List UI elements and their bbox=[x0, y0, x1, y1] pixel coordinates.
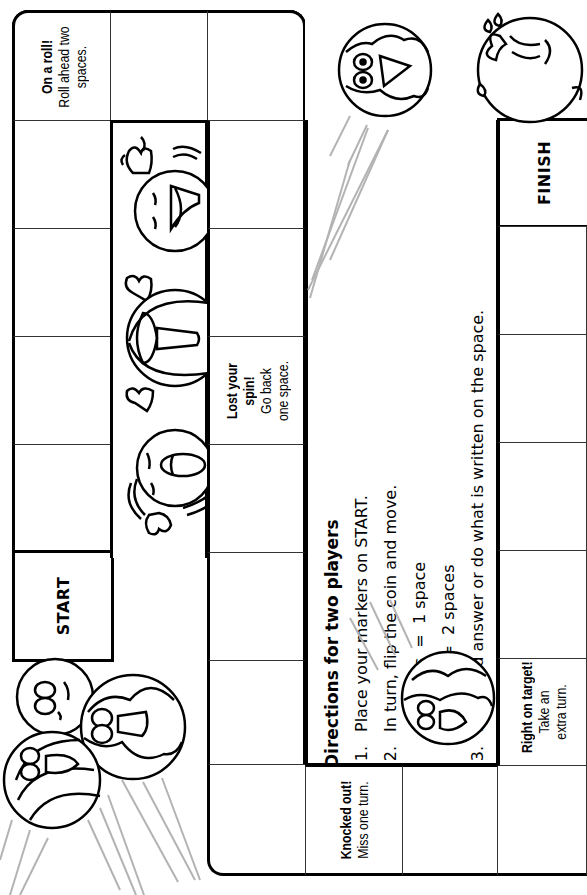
space[interactable] bbox=[497, 226, 587, 336]
space[interactable] bbox=[12, 228, 111, 337]
directions-title: Directions for two players bbox=[318, 8, 347, 768]
space[interactable] bbox=[207, 444, 306, 553]
space-on-a-roll[interactable]: On a roll! Roll ahead two spaces. bbox=[12, 10, 111, 121]
space-title: spin! bbox=[240, 350, 257, 432]
space-text: Go back bbox=[257, 350, 274, 432]
space[interactable] bbox=[12, 120, 111, 229]
space[interactable] bbox=[497, 764, 587, 876]
space-text: Take an bbox=[535, 671, 552, 753]
direction-step: Heads = 1 space bbox=[405, 8, 434, 768]
space[interactable] bbox=[497, 550, 587, 660]
space-text: Miss one turn. bbox=[354, 775, 371, 865]
space-title: On a roll! bbox=[37, 26, 54, 108]
space-title: Lost your bbox=[223, 350, 240, 432]
space-title: Knocked out! bbox=[337, 775, 354, 865]
spinning-balls-illustration bbox=[113, 123, 211, 561]
space-title: Right on target! bbox=[518, 671, 535, 753]
space[interactable] bbox=[497, 334, 587, 444]
finish-label: FINISH bbox=[534, 141, 553, 205]
space[interactable] bbox=[12, 336, 111, 445]
start-label: START bbox=[54, 577, 73, 636]
space[interactable] bbox=[12, 444, 111, 553]
space-text: one space. bbox=[274, 350, 291, 432]
space-text: extra turn. bbox=[552, 671, 569, 753]
direction-step: 3.Read and answer or do what is written … bbox=[463, 8, 492, 768]
space-lost-your-spin[interactable]: Lost your spin! Go back one space. bbox=[207, 336, 306, 445]
space[interactable] bbox=[207, 10, 306, 121]
space[interactable] bbox=[207, 660, 306, 766]
direction-step: Tails = 2 spaces bbox=[434, 8, 463, 768]
space[interactable] bbox=[207, 552, 306, 661]
space-text: spaces. bbox=[71, 26, 88, 108]
direction-step: 2.In turn, flip the coin and move. bbox=[376, 8, 405, 768]
space-start[interactable]: START bbox=[12, 550, 114, 662]
space-finish[interactable]: FINISH bbox=[497, 118, 587, 228]
space[interactable] bbox=[110, 10, 208, 121]
space[interactable] bbox=[207, 764, 307, 876]
space-knocked-out[interactable]: Knocked out! Miss one turn. bbox=[305, 764, 403, 876]
space[interactable] bbox=[207, 120, 306, 229]
space-text: Roll ahead two bbox=[54, 26, 71, 108]
space[interactable] bbox=[207, 228, 306, 337]
space[interactable] bbox=[497, 442, 587, 552]
space[interactable] bbox=[402, 764, 499, 876]
direction-step: 1.Place your markers on START. bbox=[347, 8, 376, 768]
space-right-on-target[interactable]: Right on target! Take an extra turn. bbox=[497, 658, 587, 766]
illustration-panel bbox=[110, 120, 208, 558]
